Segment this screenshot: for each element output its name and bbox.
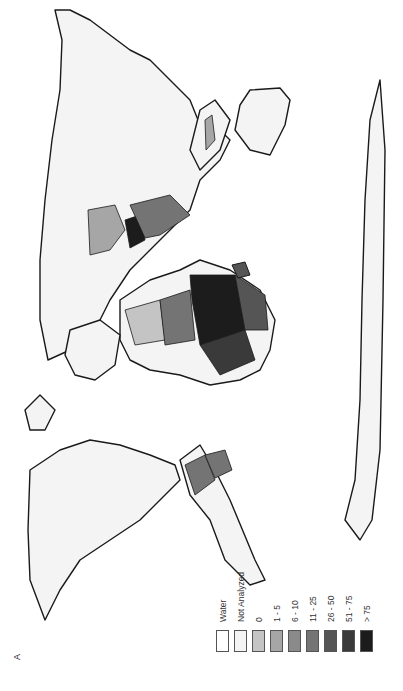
legend-swatch-1-5	[270, 630, 283, 652]
legend-label-gt-75: > 75	[362, 605, 372, 622]
world-map	[0, 0, 403, 691]
north-america	[28, 440, 180, 620]
legend-label-51-75: 51 - 75	[344, 596, 354, 622]
legend-swatch-gt-75	[360, 630, 373, 652]
legend-swatch-not-analyzed	[234, 630, 247, 652]
greenland	[25, 395, 55, 430]
legend-swatch-26-50	[324, 630, 337, 652]
legend-label-water: Water	[218, 600, 228, 622]
legend-swatch-water	[216, 630, 229, 652]
legend-swatch-51-75	[342, 630, 355, 652]
legend-label-not-analyzed: Not Analyzed	[236, 572, 246, 622]
legend-label-6-10: 6 - 10	[290, 600, 300, 622]
legend-label-26-50: 26 - 50	[326, 596, 336, 622]
legend-label-1-5: 1 - 5	[272, 605, 282, 622]
region-sahel	[160, 290, 195, 345]
antarctica	[345, 80, 385, 540]
legend-swatch-11-25	[306, 630, 319, 652]
legend-swatch-6-10	[288, 630, 301, 652]
legend-label-11-25: 11 - 25	[308, 596, 318, 622]
australia	[235, 88, 290, 155]
legend-swatch-0	[252, 630, 265, 652]
legend-label-0: 0	[254, 617, 264, 622]
legend: Water Not Analyzed 0 1 - 5 6 - 10 11 - 2…	[216, 600, 386, 660]
europe	[65, 320, 120, 380]
